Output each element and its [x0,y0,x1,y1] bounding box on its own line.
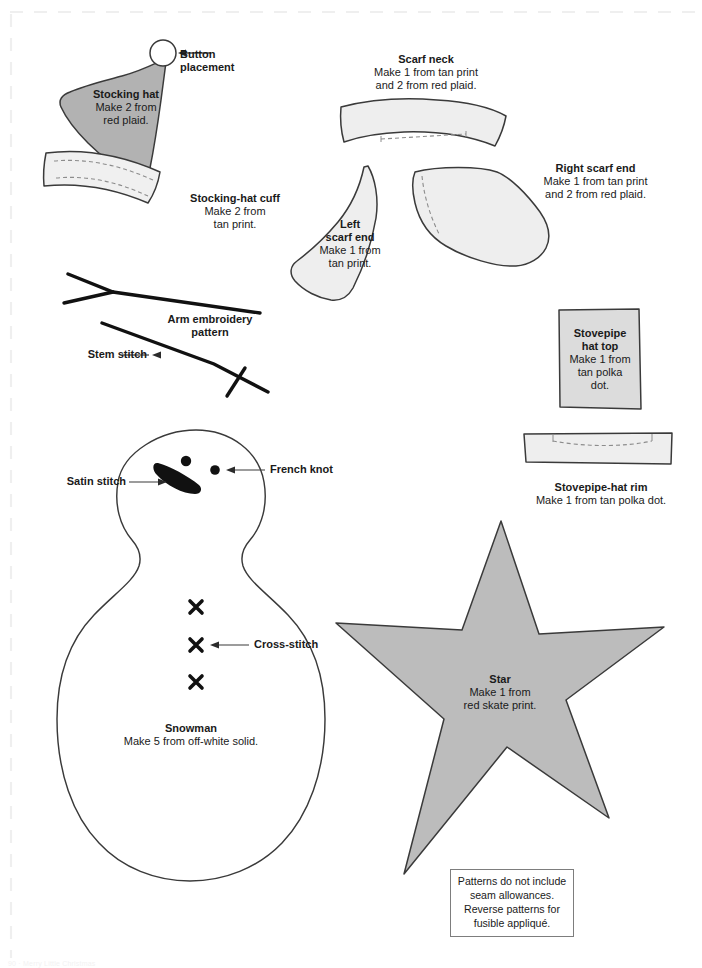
piece-snowman [57,430,325,881]
note-line3: Reverse patterns for [464,903,560,915]
seam-allowance-note: Patterns do not include seam allowances.… [450,869,574,937]
french-knot-right [210,465,220,475]
piece-stovepipe-hat-top [559,309,641,409]
french-knot-left [181,456,191,466]
piece-right-scarf-end [413,168,549,267]
button-placement-marker [150,40,211,66]
piece-left-scarf-end [291,166,377,300]
piece-stovepipe-hat-rim [524,433,672,464]
arm-embroidery-shapes [64,274,268,396]
piece-star [336,521,664,874]
pattern-sheet [0,0,702,968]
note-line4: fusible appliqué. [474,917,551,929]
note-line1: Patterns do not include [458,875,566,887]
piece-scarf-neck [341,99,506,146]
page-footer: 90 · Merry Little Christmas [8,960,95,967]
note-line2: seam allowances. [470,889,554,901]
